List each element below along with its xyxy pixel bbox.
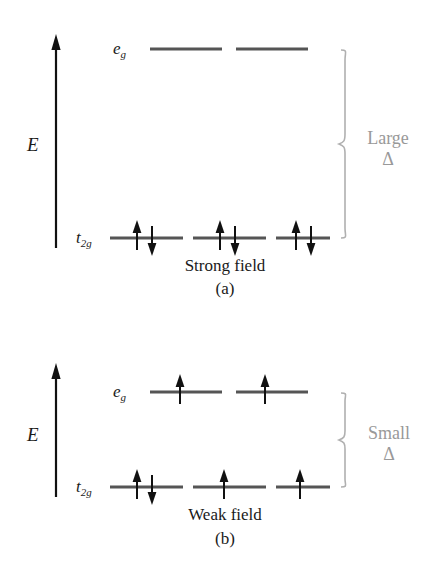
splitting-label-a: LargeΔ (352, 128, 424, 170)
electron-single-eg-2 (261, 374, 270, 404)
splitting-brace-b (339, 393, 346, 487)
panel-caption-a: Strong field (100, 257, 350, 274)
panel-strong-field: E eg t2g LargeΔ Strong field (a) (0, 0, 428, 300)
panel-subcaption-b: (b) (100, 530, 350, 547)
delta-symbol-a: Δ (352, 149, 424, 170)
panel-caption-b: Weak field (100, 506, 350, 523)
electron-up-arrow (133, 469, 142, 499)
electron-up-arrow (133, 220, 142, 250)
level-label-eg-a: eg (113, 40, 126, 60)
energy-axis-arrow-a (51, 34, 60, 248)
electron-single-t2g-2 (220, 469, 229, 499)
electron-down-arrow (231, 226, 240, 256)
level-label-t2g-b: t2g (76, 478, 92, 498)
electron-down-arrow (148, 226, 157, 256)
panel-weak-field: E eg t2g SmallΔ Weak field (b) (0, 290, 428, 567)
splitting-label-b: SmallΔ (352, 423, 426, 465)
energy-axis-label-a: E (27, 135, 39, 154)
electron-up-arrow (216, 220, 225, 250)
electron-down-arrow (307, 226, 316, 256)
level-label-t2g-a: t2g (76, 229, 92, 249)
electron-up-arrow (292, 220, 301, 250)
delta-symbol-b: Δ (352, 444, 426, 465)
electron-down-arrow (148, 475, 157, 505)
energy-axis-arrow-b (51, 363, 60, 497)
electron-single-eg-1 (176, 374, 185, 404)
level-label-eg-b: eg (113, 383, 126, 403)
crystal-field-splitting-figure: E eg t2g LargeΔ Strong field (a) (0, 0, 428, 567)
energy-axis-label-b: E (27, 425, 39, 444)
electron-single-t2g-3 (296, 469, 305, 499)
splitting-brace-a (339, 50, 346, 238)
